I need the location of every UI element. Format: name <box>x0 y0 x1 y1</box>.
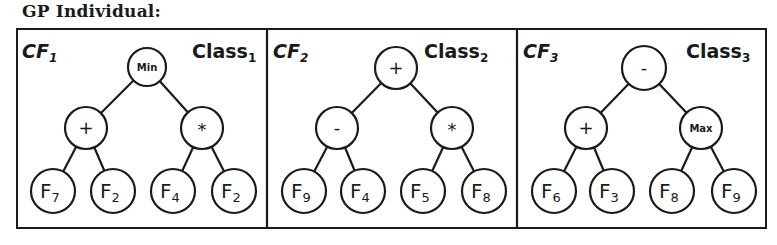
operator-node: * <box>431 107 473 149</box>
operator-node: * <box>181 107 223 149</box>
leaf-node: F7 <box>31 169 75 213</box>
leaf-node: F6 <box>532 169 576 213</box>
leaf-node: F4 <box>151 169 195 213</box>
svg-text:*: * <box>198 119 207 140</box>
panel-cf1: CF1 Class1 Min + * F7 F2 F4 <box>22 40 256 213</box>
svg-text:-: - <box>641 57 648 78</box>
leaf-node: F9 <box>712 169 756 213</box>
operator-node: + <box>565 107 607 149</box>
leaf-node: F8 <box>462 169 506 213</box>
class-label: Class2 <box>424 40 488 65</box>
leaf-node: F8 <box>650 169 694 213</box>
leaf-node: F4 <box>341 169 385 213</box>
class-label: Class3 <box>686 40 750 65</box>
root-node: + <box>375 47 417 89</box>
operator-node: - <box>316 107 358 149</box>
svg-text:+: + <box>388 57 403 78</box>
leaf-node: F9 <box>282 169 326 213</box>
svg-text:*: * <box>448 119 457 140</box>
operator-node: + <box>65 107 107 149</box>
svg-text:-: - <box>334 117 341 138</box>
panel-cf2: CF2 Class2 + - * F9 F4 F5 <box>273 40 506 213</box>
svg-text:Max: Max <box>689 123 713 134</box>
panel-cf3: CF3 Class3 - + Max F6 F3 F8 <box>523 40 756 213</box>
svg-text:+: + <box>578 117 593 138</box>
gp-individual-diagram: CF1 Class1 Min + * F7 F2 F4 <box>0 0 777 245</box>
root-node: - <box>622 46 666 90</box>
svg-text:+: + <box>78 117 93 138</box>
class-label: Class1 <box>192 40 256 65</box>
cf-label: CF3 <box>523 40 558 65</box>
cf-label: CF2 <box>273 40 308 65</box>
operator-node: Max <box>680 107 722 149</box>
leaf-node: F3 <box>590 169 634 213</box>
svg-text:Min: Min <box>137 62 158 73</box>
leaf-node: F2 <box>91 169 135 213</box>
root-node: Min <box>128 48 166 86</box>
cf-label: CF1 <box>22 40 57 65</box>
leaf-node: F2 <box>212 169 256 213</box>
leaf-node: F5 <box>401 169 445 213</box>
